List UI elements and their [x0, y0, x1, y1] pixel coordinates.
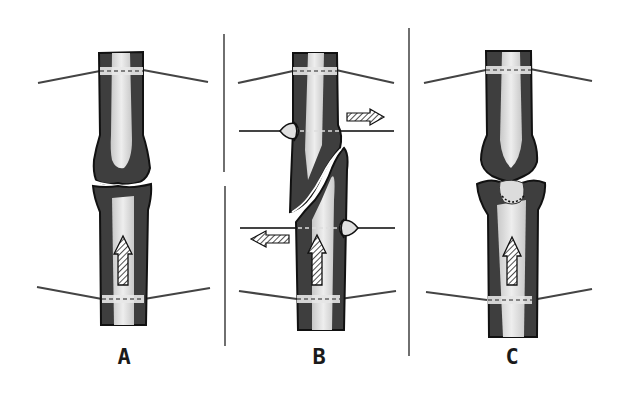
articular-head [500, 180, 525, 204]
panel-c [424, 51, 592, 337]
fixation-diagram [0, 0, 622, 393]
olive-stopper-left [280, 122, 299, 141]
panel-label-c: C [497, 344, 527, 369]
olive-stopper-right [340, 219, 359, 238]
panel-label-a: A [109, 344, 139, 369]
panel-label-b: B [304, 344, 334, 369]
panel-b [238, 53, 396, 330]
push-arrow-left-icon [251, 231, 289, 247]
push-arrow-right-icon [347, 109, 384, 125]
panel-a [37, 52, 210, 325]
